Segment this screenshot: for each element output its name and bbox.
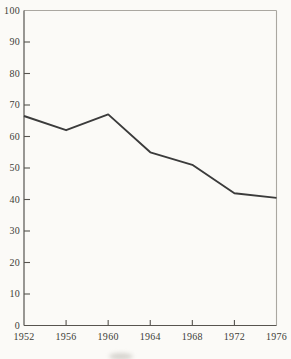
y-axis-tick-label: 70 <box>9 99 20 110</box>
x-axis-tick-label: 1956 <box>55 331 76 342</box>
scanned-book-page: 0102030405060708090100195219561960196419… <box>0 0 291 359</box>
x-axis-tick-label: 1968 <box>182 331 203 342</box>
line-chart: 0102030405060708090100195219561960196419… <box>0 0 291 359</box>
x-axis-tick-label: 1976 <box>266 331 287 342</box>
y-axis-tick-label: 60 <box>9 131 20 142</box>
y-axis-tick-label: 50 <box>9 162 20 173</box>
line-chart-figure: 0102030405060708090100195219561960196419… <box>0 0 291 359</box>
y-axis-tick-label: 30 <box>9 225 20 236</box>
x-axis-tick-label: 1964 <box>140 331 161 342</box>
x-axis-tick-label: 1960 <box>98 331 119 342</box>
y-axis-tick-label: 10 <box>9 288 20 299</box>
y-axis-tick-label: 90 <box>9 36 20 47</box>
y-axis-tick-label: 0 <box>15 320 20 331</box>
y-axis-tick-label: 100 <box>4 5 20 16</box>
y-axis-tick-label: 40 <box>9 194 20 205</box>
data-line-series <box>24 114 277 197</box>
x-axis-tick-label: 1952 <box>13 331 34 342</box>
x-axis-tick-label: 1972 <box>224 331 245 342</box>
y-axis-tick-label: 20 <box>9 257 20 268</box>
y-axis-tick-label: 80 <box>9 68 20 79</box>
